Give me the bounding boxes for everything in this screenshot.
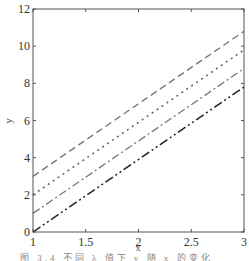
x-tick-label: 2.5 [184,235,199,249]
series-dash-dot-line [33,69,244,214]
x-tick-label: 1 [30,235,36,249]
line-chart: 11.522.53024681012 x y [0,0,249,261]
figure-caption: 图 3.4 不同 λ 值下 y 随 x 的变化 [20,251,249,261]
y-tick-label: 4 [24,151,30,165]
plot-frame [33,9,244,232]
series-dashed-line [33,31,244,176]
y-tick-label: 10 [18,39,30,53]
y-axis-label: y [2,118,14,124]
y-tick-label: 2 [24,188,30,202]
series-dash-dot-dot-line [33,87,244,232]
y-tick-label: 0 [24,225,30,239]
series-dotted-line [33,50,244,195]
y-tick-label: 8 [24,76,30,90]
x-tick-label: 1.5 [78,235,93,249]
y-tick-label: 12 [18,2,30,16]
x-tick-label: 3 [241,235,247,249]
series-layer [33,31,244,232]
y-tick-label: 6 [24,114,30,128]
